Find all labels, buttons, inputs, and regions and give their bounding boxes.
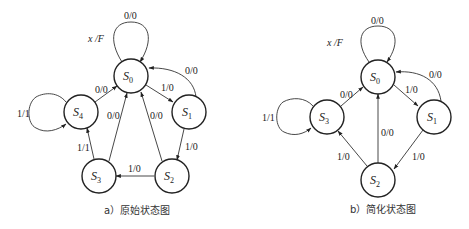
state-b-s2: S2 — [361, 163, 395, 197]
edge-label-b-s2-s0: 0/0 — [381, 127, 394, 138]
edge-label-b-s2-s3: 1/0 — [337, 151, 350, 162]
diagram-b-simplified: 0/0 x /F 1/0 0/0 1/0 0/0 1/0 0/0 1/1 S0 … — [262, 15, 451, 215]
legend-a: x /F — [87, 33, 105, 44]
diagram-a-original: 0/0 x /F 1/0 0/0 1/0 0/0 1/0 0/0 1/1 0/0… — [17, 10, 206, 216]
edge-label-a-s3-s4: 1/1 — [77, 142, 90, 153]
edge-label-a-s1-s0: 0/0 — [185, 65, 198, 76]
edge-b-s3-s3 — [277, 99, 313, 135]
state-b-s1: S1 — [417, 100, 451, 134]
caption-b: b）简化状态图 — [350, 203, 416, 215]
state-b-s0: S0 — [361, 60, 395, 94]
caption-a: a）原始状态图 — [104, 204, 170, 216]
edge-label-b-s1-s0: 0/0 — [429, 69, 442, 80]
edge-label-a-s0-s0: 0/0 — [124, 10, 137, 21]
state-a-s4: S4 — [64, 95, 98, 129]
edge-b-s0-s0 — [361, 26, 395, 62]
edge-label-b-s3-s0: 0/0 — [340, 89, 353, 100]
edge-a-s1-s2 — [177, 129, 184, 160]
state-a-s0: S0 — [114, 59, 148, 93]
edge-label-a-s2-s0: 0/0 — [150, 110, 163, 121]
state-a-s3: S3 — [82, 159, 116, 193]
edge-a-s0-s0 — [114, 22, 149, 62]
edge-b-s1-s2 — [394, 130, 423, 169]
edge-label-b-s0-s0: 0/0 — [371, 15, 384, 26]
edge-label-a-s1-s2: 1/0 — [185, 141, 198, 152]
edge-a-s2-s0 — [141, 92, 162, 161]
edge-label-b-s1-s2: 1/0 — [412, 151, 425, 162]
edge-label-b-s3-s3: 1/1 — [262, 112, 275, 123]
edge-a-s3-s0 — [109, 93, 127, 161]
state-b-s3: S3 — [310, 100, 344, 134]
edge-label-a-s4-s4: 1/1 — [17, 108, 30, 119]
edge-label-b-s0-s1: 1/0 — [405, 84, 418, 95]
state-a-s1: S1 — [172, 95, 206, 129]
edge-label-a-s2-s3: 1/0 — [128, 163, 141, 174]
edge-label-a-s0-s1: 1/0 — [161, 82, 174, 93]
state-diagrams: 0/0 x /F 1/0 0/0 1/0 0/0 1/0 0/0 1/1 0/0… — [0, 0, 469, 229]
edge-label-a-s3-s0: 0/0 — [107, 110, 120, 121]
edge-label-a-s4-s0: 0/0 — [95, 84, 108, 95]
legend-b: x /F — [326, 37, 344, 48]
state-a-s2: S2 — [155, 159, 189, 193]
edge-a-s4-s4 — [29, 94, 66, 131]
